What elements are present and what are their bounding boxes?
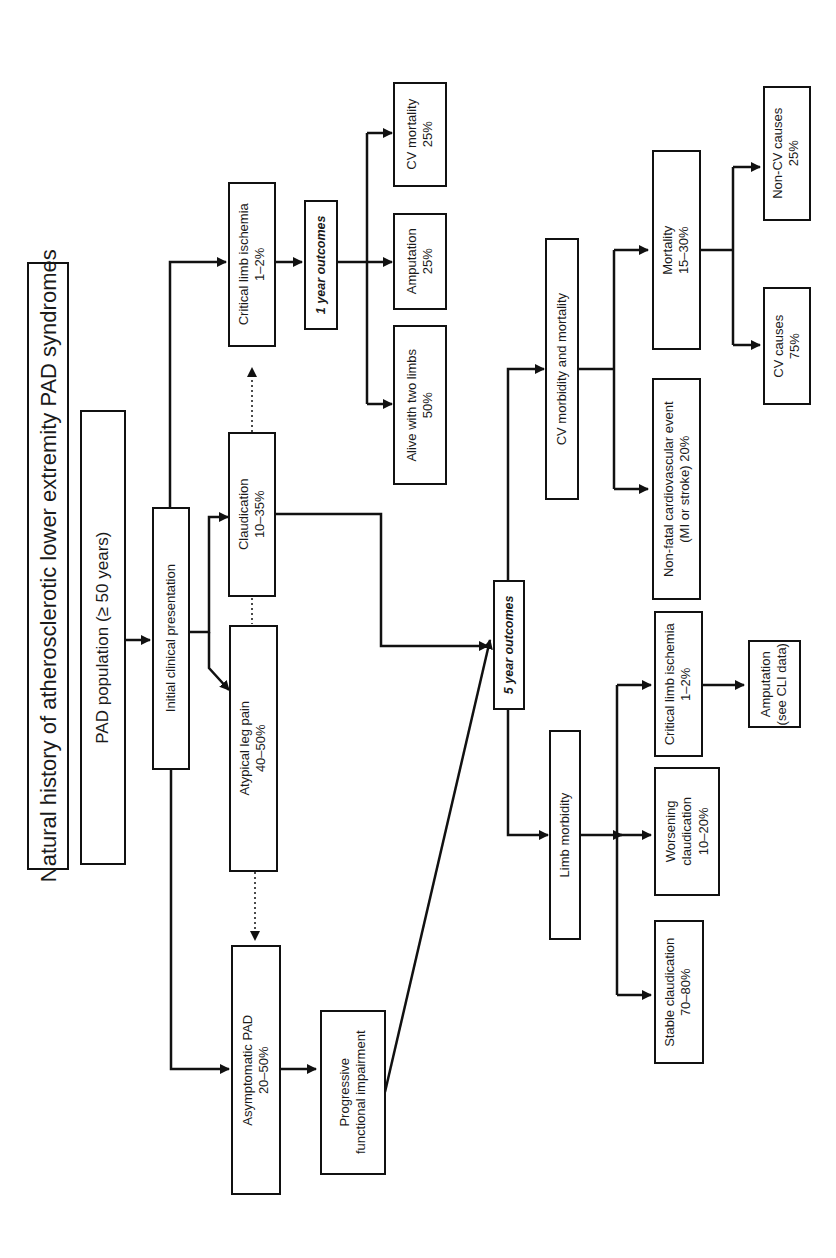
diagram-canvas: Natural history of atherosclerotic lower… bbox=[0, 0, 836, 1258]
node-alive-two-limbs: Alive with two limbs50% bbox=[393, 325, 447, 485]
diagram-title: Natural history of atherosclerotic lower… bbox=[27, 262, 69, 870]
node-progressive-impairment: Progressivefunctional impairment bbox=[320, 1010, 386, 1175]
title-text: Natural history of atherosclerotic lower… bbox=[34, 250, 62, 883]
node-5-year-outcomes: 5 year outcomes bbox=[493, 580, 525, 710]
node-pad-population: PAD population (≥ 50 years) bbox=[80, 410, 126, 865]
node-non-fatal-cv-event: Non-fatal cardiovascular event(MI or str… bbox=[652, 378, 701, 600]
node-non-cv-causes: Non-CV causes25% bbox=[763, 86, 811, 221]
node-mortality: Mortality15–30% bbox=[652, 150, 701, 350]
node-amputation-5yr: Amputation(see CLI data) bbox=[748, 640, 801, 728]
node-cv-morbidity-mortality: CV morbidity and mortality bbox=[545, 238, 579, 500]
node-limb-morbidity: Limb morbidity bbox=[549, 730, 581, 940]
node-stable-claudication: Stable claudication70–80% bbox=[654, 920, 704, 1064]
node-cv-causes: CV causes75% bbox=[763, 287, 811, 405]
node-critical-limb-ischemia: Critical limb ischemia1–2% bbox=[228, 182, 276, 347]
node-claudication: Claudication10–35% bbox=[228, 432, 276, 597]
node-atypical-leg-pain: Atypical leg pain40–50% bbox=[229, 625, 278, 872]
node-1-year-outcomes: 1 year outcomes bbox=[304, 200, 338, 330]
node-cv-mortality-1yr: CV mortality25% bbox=[393, 82, 447, 187]
node-initial-presentation: Initial clinical presentation bbox=[152, 507, 190, 770]
node-amputation-1yr: Amputation25% bbox=[393, 213, 447, 310]
node-worsening-claudication: Worseningclaudication10–20% bbox=[654, 767, 720, 896]
node-critical-limb-ischemia-5yr: Critical limb ischemia1–2% bbox=[654, 611, 703, 757]
node-asymptomatic-pad: Asymptomatic PAD20–50% bbox=[231, 945, 281, 1195]
